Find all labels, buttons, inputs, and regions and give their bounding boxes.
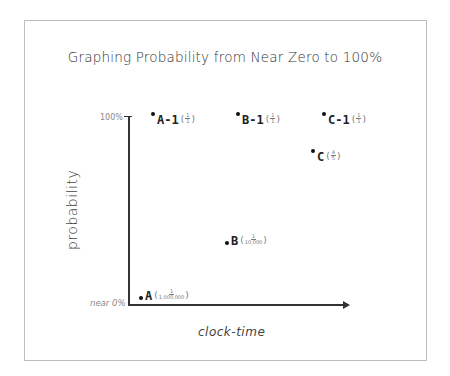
point-fraction: (11) xyxy=(181,113,195,124)
fraction-denominator: 1 xyxy=(357,119,360,124)
y-axis-top-tick xyxy=(124,116,132,117)
point-label: C-1 xyxy=(328,114,350,126)
point-b: B (110,000) xyxy=(225,233,267,247)
point-marker xyxy=(322,112,326,116)
chart-title: Graphing Probability from Near Zero to 1… xyxy=(0,49,450,65)
point-fraction: (11,000,000) xyxy=(154,289,188,300)
y-axis-label: probability xyxy=(64,170,80,250)
point-marker xyxy=(151,112,155,116)
fraction-denominator: 5 xyxy=(332,156,335,161)
point-c1: C-1 (11) xyxy=(322,112,366,126)
point-label: A xyxy=(145,290,152,302)
y-tick-near-zero: near 0% xyxy=(90,298,126,308)
fraction-denominator: 10,000 xyxy=(245,240,263,245)
fraction-denominator: 1 xyxy=(186,119,189,124)
point-marker xyxy=(139,296,143,300)
y-tick-100: 100% xyxy=(100,113,123,122)
fraction-denominator: 1,000,000 xyxy=(159,295,184,300)
x-axis xyxy=(128,304,345,306)
point-a1: A-1 (11) xyxy=(151,112,195,126)
point-marker xyxy=(311,149,315,153)
point-fraction: (11) xyxy=(266,113,280,124)
x-axis-label: clock-time xyxy=(198,325,265,339)
point-c: C (45) xyxy=(311,149,340,163)
point-fraction: (11) xyxy=(352,113,366,124)
point-fraction: (110,000) xyxy=(240,234,267,245)
point-fraction: (45) xyxy=(326,150,340,161)
point-marker xyxy=(236,112,240,116)
point-a: A (11,000,000) xyxy=(139,288,189,302)
point-label: A-1 xyxy=(157,114,179,126)
point-b1: B-1 (11) xyxy=(236,112,280,126)
point-marker xyxy=(225,241,229,245)
point-label: B-1 xyxy=(242,114,264,126)
fraction-denominator: 1 xyxy=(271,119,274,124)
x-axis-arrow-icon xyxy=(343,301,350,309)
point-label: B xyxy=(231,235,238,247)
point-label: C xyxy=(317,151,324,163)
chart-frame xyxy=(24,20,427,361)
y-axis xyxy=(128,117,130,305)
